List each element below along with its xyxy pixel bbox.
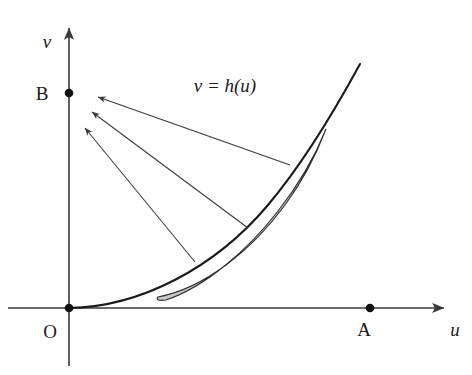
figure-container: v u B O A v = h(u) bbox=[0, 0, 472, 375]
u-axis-label: u bbox=[450, 319, 460, 340]
curve-equation-label: v = h(u) bbox=[194, 75, 256, 97]
point-label-o: O bbox=[43, 321, 57, 342]
point-dot-o bbox=[65, 304, 74, 313]
point-label-b: B bbox=[36, 83, 49, 104]
pointer-arrows-group bbox=[85, 97, 290, 262]
diagram-canvas: v u B O A v = h(u) bbox=[0, 0, 472, 375]
point-dot-a bbox=[366, 304, 375, 313]
point-label-a: A bbox=[357, 319, 371, 340]
v-axis-label: v bbox=[43, 31, 52, 52]
function-curve bbox=[69, 64, 360, 308]
point-dot-b bbox=[65, 89, 74, 98]
labels-group: v u B O A v = h(u) bbox=[36, 31, 460, 342]
pointer-arrow-upper bbox=[98, 97, 290, 165]
pointer-arrow-middle bbox=[92, 112, 248, 228]
marked-points-group bbox=[65, 89, 375, 313]
shaded-lens-region bbox=[157, 129, 326, 300]
